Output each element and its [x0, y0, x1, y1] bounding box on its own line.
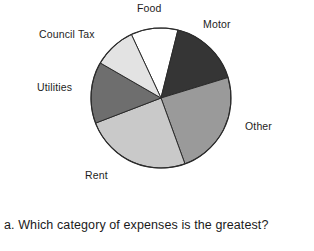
question-block: a. Which category of expenses is the gre…	[0, 218, 314, 233]
pie-chart-figure: Food Motor Council Tax Utilities Other R…	[0, 0, 314, 200]
pie-label-motor: Motor	[203, 19, 231, 30]
pie-label-other: Other	[245, 121, 272, 132]
pie-label-rent: Rent	[85, 170, 108, 181]
pie-label-council-tax: Council Tax	[39, 29, 95, 40]
pie-label-utilities: Utilities	[37, 82, 72, 93]
pie-slice-group	[91, 28, 231, 168]
question-text: a. Which category of expenses is the gre…	[4, 218, 310, 233]
pie-label-food: Food	[137, 3, 162, 14]
